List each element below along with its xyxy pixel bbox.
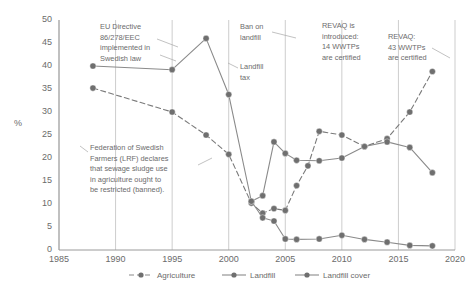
data-point-landfill[interactable] bbox=[407, 144, 413, 150]
annotation-line: Swedish law bbox=[100, 54, 141, 63]
annotation-leader-line bbox=[198, 158, 212, 165]
data-point-landfill[interactable] bbox=[384, 139, 390, 145]
data-point-agriculture[interactable] bbox=[90, 85, 96, 91]
annotation-line: that sewage sludge use bbox=[90, 164, 168, 173]
data-point-landfill-cover[interactable] bbox=[260, 215, 266, 221]
data-point-agriculture[interactable] bbox=[226, 151, 232, 157]
data-point-agriculture[interactable] bbox=[407, 109, 413, 115]
data-point-agriculture[interactable] bbox=[282, 207, 288, 213]
annotation-revaq-introduced: REVAQ isintroduced:14 WWTPsare certified bbox=[322, 21, 361, 63]
annotation-line: Farmers (LRF) declares bbox=[90, 154, 168, 163]
data-point-landfill-cover[interactable] bbox=[282, 236, 288, 242]
y-tick-label: 45 bbox=[30, 37, 52, 49]
annotation-leader-line bbox=[80, 146, 88, 152]
data-point-landfill[interactable] bbox=[271, 139, 277, 145]
y-axis-title: % bbox=[14, 118, 22, 130]
data-point-landfill-cover[interactable] bbox=[226, 91, 232, 97]
annotation-line: landfill bbox=[240, 33, 261, 42]
annotation-line: are certified bbox=[322, 53, 361, 62]
annotation-line: EU Directive bbox=[100, 22, 141, 31]
data-point-landfill[interactable] bbox=[316, 158, 322, 164]
annotation-line: in agriculture ought to bbox=[90, 175, 161, 184]
x-tick-label: 2020 bbox=[435, 254, 471, 266]
y-tick-label: 25 bbox=[30, 129, 52, 141]
annotation-line: implemented in bbox=[100, 43, 150, 52]
data-point-landfill-cover[interactable] bbox=[294, 236, 300, 242]
data-point-landfill-cover[interactable] bbox=[203, 35, 209, 41]
data-point-agriculture[interactable] bbox=[339, 132, 345, 138]
data-point-landfill-cover[interactable] bbox=[407, 242, 413, 248]
data-point-agriculture[interactable] bbox=[294, 183, 300, 189]
data-point-landfill[interactable] bbox=[339, 155, 345, 161]
legend-swatch-dashed-icon bbox=[129, 270, 153, 280]
annotation-lrf-declaration: Federation of SwedishFarmers (LRF) decla… bbox=[90, 143, 168, 196]
data-point-landfill-cover[interactable] bbox=[361, 236, 367, 242]
y-tick-label: 40 bbox=[30, 60, 52, 72]
y-tick-label: 20 bbox=[30, 152, 52, 164]
data-point-landfill-cover[interactable] bbox=[316, 236, 322, 242]
legend-item-landfill[interactable]: Landfill bbox=[222, 270, 275, 280]
y-tick-label: 5 bbox=[30, 221, 52, 233]
data-point-landfill[interactable] bbox=[282, 150, 288, 156]
data-point-agriculture[interactable] bbox=[429, 68, 435, 74]
annotation-line: REVAQ is bbox=[322, 21, 355, 30]
x-tick-label: 2000 bbox=[209, 254, 249, 266]
y-tick-label: 30 bbox=[30, 106, 52, 118]
legend-label-agriculture: Agriculture bbox=[157, 271, 195, 280]
legend-label-landfill: Landfill bbox=[250, 271, 275, 280]
data-point-landfill[interactable] bbox=[260, 193, 266, 199]
data-point-agriculture[interactable] bbox=[316, 128, 322, 134]
annotation-landfill-tax: Landfilltax bbox=[240, 62, 263, 83]
annotation-line: 43 WWTPs bbox=[388, 43, 425, 52]
data-point-landfill-cover[interactable] bbox=[384, 239, 390, 245]
y-tick-label: 15 bbox=[30, 175, 52, 187]
data-point-landfill-cover[interactable] bbox=[169, 67, 175, 73]
annotation-leader-line bbox=[157, 39, 178, 47]
legend-swatch-solid-icon bbox=[295, 270, 319, 280]
annotation-line: REVAQ: bbox=[388, 32, 415, 41]
annotation-revaq-43: REVAQ:43 WWTPsare certified bbox=[388, 32, 427, 64]
data-point-agriculture[interactable] bbox=[203, 132, 209, 138]
legend-swatch-solid-icon bbox=[222, 270, 246, 280]
data-point-landfill-cover[interactable] bbox=[339, 232, 345, 238]
annotation-eu-directive: EU Directive86/278/EECimplemented inSwed… bbox=[100, 22, 150, 64]
x-tick-label: 1990 bbox=[96, 254, 136, 266]
data-point-landfill-cover[interactable] bbox=[271, 218, 277, 224]
data-point-landfill[interactable] bbox=[361, 143, 367, 149]
annotation-line: 14 WWTPs bbox=[322, 42, 359, 51]
annotation-line: 86/278/EEC bbox=[100, 33, 140, 42]
annotation-line: Landfill bbox=[240, 62, 263, 71]
annotation-line: introduced: bbox=[322, 32, 359, 41]
data-point-landfill-cover[interactable] bbox=[248, 198, 254, 204]
x-tick-label: 1985 bbox=[39, 254, 79, 266]
annotation-line: Ban on bbox=[240, 22, 263, 31]
x-tick-label: 2005 bbox=[265, 254, 305, 266]
annotation-leader-line bbox=[160, 55, 176, 61]
data-point-agriculture[interactable] bbox=[271, 206, 277, 212]
data-point-landfill-cover[interactable] bbox=[90, 63, 96, 69]
data-point-landfill-cover[interactable] bbox=[429, 243, 435, 249]
data-point-agriculture[interactable] bbox=[169, 109, 175, 115]
annotation-leader-line bbox=[432, 48, 450, 58]
y-tick-label: 10 bbox=[30, 198, 52, 210]
chart-container: % EU Directive86/278/EECimplemented inSw… bbox=[0, 0, 471, 294]
annotation-ban-on-landfill: Ban onlandfill bbox=[240, 22, 263, 43]
annotation-line: tax bbox=[240, 73, 250, 82]
annotation-leader-line bbox=[272, 32, 296, 38]
data-point-landfill[interactable] bbox=[294, 157, 300, 163]
legend-item-agriculture[interactable]: Agriculture bbox=[129, 270, 195, 280]
legend-label-landfill-cover: Landfill cover bbox=[323, 271, 370, 280]
annotation-line: are certified bbox=[388, 53, 427, 62]
x-tick-label: 2010 bbox=[322, 254, 362, 266]
x-tick-label: 2015 bbox=[378, 254, 418, 266]
annotation-leader-line bbox=[228, 63, 238, 68]
x-tick-label: 1995 bbox=[152, 254, 192, 266]
y-tick-label: 50 bbox=[30, 14, 52, 26]
data-point-agriculture[interactable] bbox=[305, 163, 311, 169]
y-tick-label: 35 bbox=[30, 83, 52, 95]
data-point-landfill[interactable] bbox=[429, 170, 435, 176]
annotation-line: be restricted (banned). bbox=[90, 185, 164, 194]
legend-item-landfill-cover[interactable]: Landfill cover bbox=[295, 270, 370, 280]
annotation-line: Federation of Swedish bbox=[90, 143, 164, 152]
